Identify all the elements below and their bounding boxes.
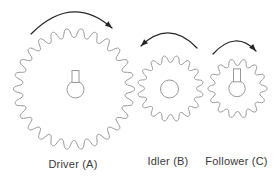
idler-rotation-arrow-curve <box>141 33 197 48</box>
driver-gear <box>14 29 135 149</box>
diagram-canvas <box>0 0 278 181</box>
gear-train-diagram: Driver (A) Idler (B) Follower (C) <box>0 0 278 181</box>
follower-rotation-arrow <box>213 41 256 54</box>
follower-rotation-arrow-curve <box>213 41 256 54</box>
driver-hub-keyway <box>72 71 79 83</box>
driver-label: Driver (A) <box>48 158 97 170</box>
idler-gear <box>138 56 203 121</box>
driver-hub-bore <box>67 81 84 98</box>
follower-label: Follower (C) <box>205 155 267 167</box>
idler-rotation-arrow <box>141 33 197 48</box>
follower-rotation-arrow-head-icon <box>249 44 256 51</box>
idler-label: Idler (B) <box>148 155 189 167</box>
driver-rotation-arrow <box>31 12 112 34</box>
follower-hub-keyway <box>234 69 241 82</box>
driver-rotation-arrow-curve <box>31 12 112 34</box>
follower-gear <box>208 60 267 118</box>
driver-rotation-arrow-head-icon <box>105 21 112 28</box>
idler-hub-bore <box>161 80 179 98</box>
follower-hub-bore <box>229 80 245 96</box>
